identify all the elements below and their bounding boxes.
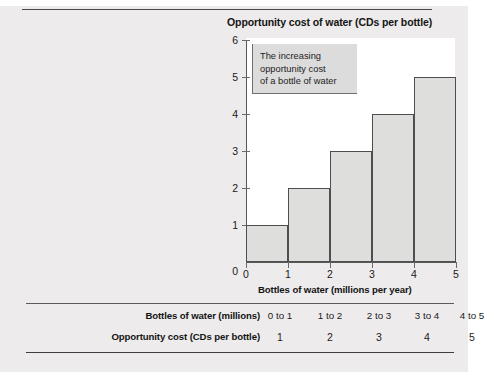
annotation-line-2: opportunity cost: [260, 63, 351, 76]
table-cell-cost-1: 2: [306, 331, 354, 343]
x-axis-title: Bottles of water (millions per year): [258, 284, 412, 295]
y-tick-3: [242, 151, 250, 152]
bar-0-to-1: [246, 225, 288, 262]
top-divider-rule: [22, 9, 432, 10]
bar-chart: Opportunity cost of water (CDs per bottl…: [210, 16, 462, 300]
data-table: Bottles of water (millions) 0 to 1 1 to …: [26, 308, 454, 350]
y-tick-label-6: 6: [222, 34, 238, 46]
bar-4-to-5: [414, 77, 456, 262]
table-row-label-opportunity-cost: Opportunity cost (CDs per bottle): [111, 331, 260, 342]
y-tick-4: [242, 114, 250, 115]
table-cell-cost-3: 4: [403, 331, 451, 343]
x-tick-label-5: 5: [446, 268, 466, 280]
y-tick-5: [242, 77, 250, 78]
annotation-line-1: The increasing: [260, 50, 351, 63]
y-tick-6: [242, 40, 250, 41]
table-cell-bottles-4: 4 to 5: [448, 310, 489, 321]
table-cell-bottles-3: 3 to 4: [403, 310, 451, 321]
table-row-bottles: Bottles of water (millions) 0 to 1 1 to …: [26, 308, 454, 329]
x-tick-label-0: 0: [236, 268, 256, 280]
table-cell-bottles-1: 1 to 2: [306, 310, 354, 321]
table-cell-cost-0: 1: [256, 331, 304, 343]
y-tick-label-2: 2: [222, 182, 238, 194]
x-tick-label-4: 4: [404, 268, 424, 280]
y-tick-label-5: 5: [222, 71, 238, 83]
table-cell-cost-4: 5: [448, 331, 489, 343]
x-tick-label-2: 2: [320, 268, 340, 280]
chart-title: Opportunity cost of water (CDs per bottl…: [227, 16, 432, 28]
bottom-divider-rule: [26, 352, 454, 353]
table-cell-bottles-0: 0 to 1: [256, 310, 304, 321]
y-tick-label-1: 1: [222, 219, 238, 231]
table-cell-cost-2: 3: [355, 331, 403, 343]
y-tick-label-3: 3: [222, 145, 238, 157]
x-tick-label-1: 1: [278, 268, 298, 280]
bar-1-to-2: [288, 188, 330, 262]
x-tick-label-3: 3: [362, 268, 382, 280]
table-row-label-bottles: Bottles of water (millions): [145, 310, 260, 321]
table-cell-bottles-2: 2 to 3: [355, 310, 403, 321]
annotation-line-3: of a bottle of water: [260, 75, 351, 88]
x-axis-line: [246, 262, 456, 263]
y-tick-label-4: 4: [222, 108, 238, 120]
table-row-opportunity-cost: Opportunity cost (CDs per bottle) 1 2 3 …: [26, 329, 454, 350]
y-tick-2: [242, 188, 250, 189]
annotation-increasing-opportunity-cost: The increasing opportunity cost of a bot…: [252, 44, 357, 94]
bar-2-to-3: [330, 151, 372, 262]
bar-3-to-4: [372, 114, 414, 262]
table-top-rule: [26, 303, 454, 304]
